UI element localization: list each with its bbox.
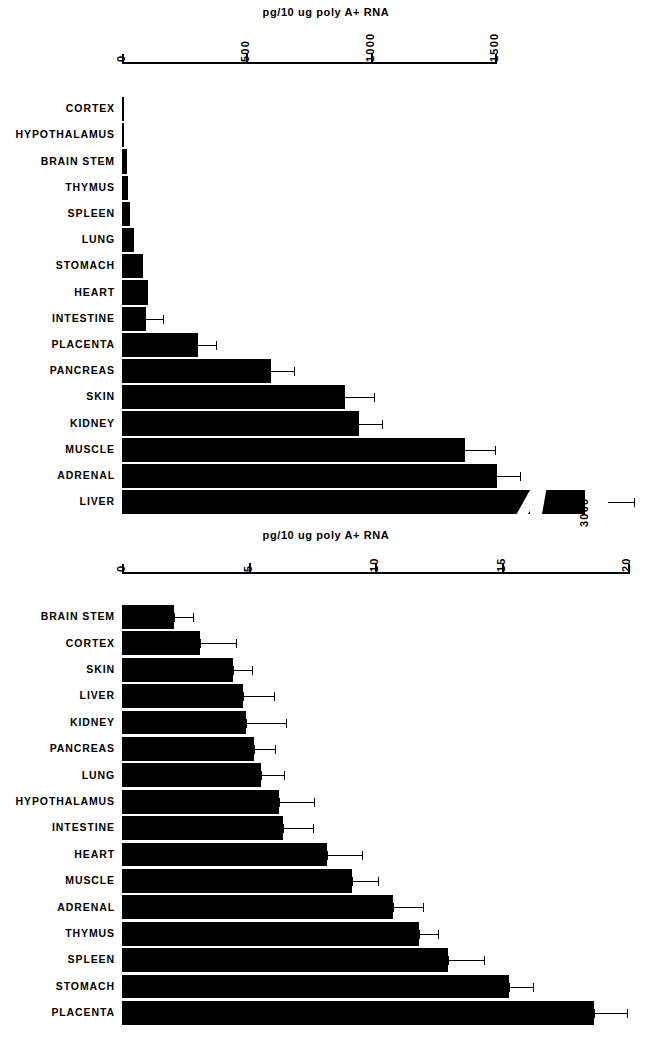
bottom-error-bar-cap: [313, 824, 314, 833]
top-bar: [122, 385, 345, 409]
bottom-error-bar-inner-cap: [419, 930, 420, 939]
top-error-bar-cap: [294, 367, 295, 376]
bottom-bar-chart-panel: pg/10 ug poly A+ RNA 05101520 BRAIN STEM…: [0, 520, 652, 1047]
bottom-bar: [122, 658, 233, 682]
bottom-error-bar-cap: [284, 771, 285, 780]
top-bar: [122, 97, 124, 121]
bottom-tick-label-15: 15: [495, 557, 507, 572]
top-category-label: KIDNEY: [0, 418, 115, 429]
top-bar: [122, 176, 128, 200]
bottom-error-bar-cap: [423, 903, 424, 912]
bottom-error-bar: [594, 1013, 627, 1014]
top-error-bar-cap: [382, 420, 383, 429]
bottom-bar: [122, 1001, 594, 1025]
bottom-axis-title: pg/10 ug poly A+ RNA: [0, 529, 652, 541]
bottom-error-bar: [254, 749, 276, 750]
bottom-error-bar-cap: [438, 930, 439, 939]
top-bar: [122, 307, 146, 331]
bottom-error-bar: [261, 775, 284, 776]
bottom-error-bar-inner-cap: [261, 771, 262, 780]
bottom-axis-right-cap: [628, 564, 630, 572]
bottom-error-bar-inner-cap: [393, 903, 394, 912]
bottom-bar: [122, 975, 509, 999]
top-tick-label-0: 0: [115, 55, 127, 62]
bottom-error-bar-cap: [362, 851, 363, 860]
top-category-label: HYPOTHALAMUS: [0, 129, 115, 140]
bottom-category-label: KIDNEY: [0, 717, 115, 728]
top-axis-right-cap: [495, 54, 497, 62]
top-error-bar: [271, 371, 293, 372]
top-category-label: INTESTINE: [0, 313, 115, 324]
top-category-label: CORTEX: [0, 103, 115, 114]
bottom-bar: [122, 895, 393, 919]
bottom-bar: [122, 790, 279, 814]
top-bar: [122, 359, 271, 383]
top-category-label: LUNG: [0, 234, 115, 245]
bottom-bar: [122, 763, 261, 787]
bottom-error-bar-cap: [274, 692, 275, 701]
bottom-tick-label-0: 0: [115, 565, 127, 572]
top-bar: [122, 438, 465, 462]
bottom-error-bar: [243, 696, 273, 697]
bottom-category-label: HYPOTHALAMUS: [0, 796, 115, 807]
bottom-error-bar: [327, 855, 362, 856]
top-category-label: ADRENAL: [0, 470, 115, 481]
top-bar: [122, 411, 359, 435]
bottom-category-label: PANCREAS: [0, 743, 115, 754]
bottom-error-bar: [279, 802, 314, 803]
top-error-bar: [497, 476, 519, 477]
bottom-bar: [122, 711, 246, 735]
top-category-label: SKIN: [0, 391, 115, 402]
bottom-category-label: SKIN: [0, 664, 115, 675]
bottom-tick-label-10: 10: [368, 557, 380, 572]
top-tick-label-1000: 1000: [364, 33, 376, 62]
top-bar: [122, 202, 130, 226]
bottom-bar: [122, 684, 243, 708]
bottom-error-bar-cap: [484, 956, 485, 965]
bottom-bar: [122, 843, 327, 867]
top-bar: [122, 149, 127, 173]
bottom-error-bar-inner-cap: [283, 824, 284, 833]
top-category-label: LIVER: [0, 496, 115, 507]
bottom-error-bar-cap: [286, 719, 287, 728]
bottom-error-bar-cap: [193, 613, 194, 622]
bottom-tick-label-5: 5: [242, 565, 254, 572]
top-error-bar: [608, 502, 634, 503]
bottom-axis-tick: [375, 563, 377, 572]
bottom-error-bar-cap: [314, 798, 315, 807]
bottom-axis-tick: [249, 563, 251, 572]
bottom-axis-tick: [502, 563, 504, 572]
top-axis-tick: [371, 53, 373, 62]
bottom-error-bar: [200, 643, 235, 644]
bottom-category-label: STOMACH: [0, 981, 115, 992]
top-axis-title: pg/10 ug poly A+ RNA: [0, 6, 652, 18]
top-bar-chart-panel: pg/10 ug poly A+ RNA 050010001500 CORTEX…: [0, 0, 652, 520]
bottom-category-label: PLACENTA: [0, 1007, 115, 1018]
figure-root: pg/10 ug poly A+ RNA 050010001500 CORTEX…: [0, 0, 652, 1047]
bottom-error-bar: [509, 987, 533, 988]
bottom-bar: [122, 816, 283, 840]
bottom-category-label: LIVER: [0, 690, 115, 701]
bottom-error-bar-inner-cap: [200, 639, 201, 648]
bottom-axis-left-cap: [122, 564, 124, 572]
bottom-error-bar-inner-cap: [448, 956, 449, 965]
bottom-category-label: HEART: [0, 849, 115, 860]
bottom-error-bar-inner-cap: [233, 666, 234, 675]
bottom-error-bar-inner-cap: [254, 745, 255, 754]
bottom-error-bar: [283, 828, 313, 829]
bottom-error-bar-inner-cap: [279, 798, 280, 807]
bottom-error-bar-inner-cap: [246, 719, 247, 728]
bottom-error-bar: [174, 617, 193, 618]
bottom-error-bar: [352, 881, 377, 882]
top-axis-left-cap: [122, 54, 124, 62]
bottom-error-bar: [393, 907, 423, 908]
bottom-error-bar-inner-cap: [174, 613, 175, 622]
top-category-label: PLACENTA: [0, 339, 115, 350]
bottom-error-bar: [246, 723, 286, 724]
bottom-bar: [122, 737, 254, 761]
top-bar: [122, 228, 134, 252]
bottom-error-bar-cap: [252, 666, 253, 675]
bottom-error-bar-inner-cap: [509, 983, 510, 992]
top-error-bar-cap: [216, 341, 217, 350]
bottom-category-label: INTESTINE: [0, 822, 115, 833]
